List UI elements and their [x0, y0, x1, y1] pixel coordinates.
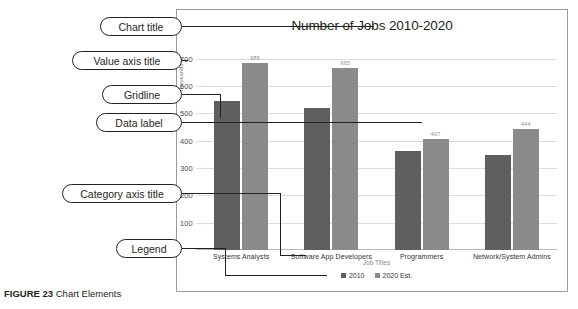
data-label: 444: [506, 121, 546, 127]
data-label: 665: [325, 60, 365, 66]
bar-group: 665Software App Developers: [286, 45, 376, 250]
category-axis-title: Job Titles: [196, 259, 557, 266]
callout-leader-cat-v: [280, 193, 281, 255]
callout-leader-value-axis-title: [182, 60, 188, 61]
legend-item[interactable]: 2020 Est.: [375, 272, 413, 279]
bar[interactable]: [485, 155, 511, 250]
callout-leader-gridline-v: [220, 94, 221, 118]
callout-legend: Legend: [116, 239, 182, 258]
bar[interactable]: [214, 101, 240, 250]
figure-caption-text: Chart Elements: [56, 288, 121, 299]
callout-gridline: Gridline: [102, 85, 182, 104]
callout-data-label: Data label: [96, 113, 182, 132]
callout-chart-title: Chart title: [100, 17, 182, 36]
legend-item[interactable]: 2010: [341, 272, 365, 279]
legend-swatch: [375, 273, 380, 278]
data-label: 407: [416, 131, 456, 137]
value-axis-tick: 400: [159, 136, 193, 145]
value-axis-tick-labels: 700600500400300200100: [155, 45, 193, 250]
legend-swatch: [341, 273, 346, 278]
bar-group: 444Network/System Admins: [467, 45, 557, 250]
bar[interactable]: [423, 139, 449, 250]
figure-caption-label: FIGURE 23: [4, 288, 53, 299]
callout-leader-chart-title: [182, 26, 374, 27]
figure-caption: FIGURE 23 Chart Elements: [4, 288, 121, 299]
callout-leader-cat-h: [182, 193, 281, 194]
plot-area: 685Systems Analysts665Software App Devel…: [196, 45, 557, 250]
callout-value-axis-title: Value axis title: [72, 51, 182, 70]
bar[interactable]: [242, 63, 268, 250]
callout-leader-legend-v: [225, 248, 226, 276]
bar-group: 407Programmers: [377, 45, 467, 250]
bar[interactable]: [304, 108, 330, 250]
value-axis-tick: 300: [159, 164, 193, 173]
bar[interactable]: [332, 68, 358, 250]
bar[interactable]: [395, 151, 421, 250]
legend-label: 2010: [349, 272, 365, 279]
value-axis-tick: 100: [159, 218, 193, 227]
bar[interactable]: [513, 129, 539, 250]
callout-leader-gridline-h: [182, 94, 221, 95]
callout-leader-legend-h: [182, 248, 226, 249]
callout-leader-cat-h2: [280, 255, 306, 256]
callout-category-axis-title: Category axis title: [62, 184, 182, 203]
callout-leader-data-label: [182, 122, 422, 123]
bar-group: 685Systems Analysts: [196, 45, 286, 250]
data-label: 685: [235, 55, 275, 61]
legend-label: 2020 Est.: [383, 272, 413, 279]
callout-leader-legend-h2: [225, 275, 327, 276]
